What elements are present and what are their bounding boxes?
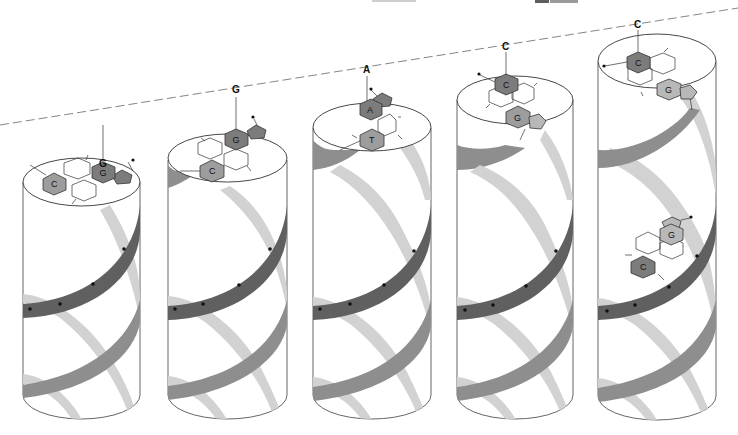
header-tab-light [550, 0, 578, 3]
phosphate-dot [554, 249, 558, 253]
cylinder-5: G C C G C [598, 19, 716, 425]
base-label-upper: G [668, 230, 675, 240]
base-label-upper: G [233, 135, 240, 145]
header-tab-dark [535, 0, 549, 3]
phosphate-dot [524, 284, 528, 288]
phosphate-dot [667, 285, 671, 289]
phosphate-dot [268, 247, 272, 251]
base-label-lower: G [514, 113, 521, 123]
sequence-label: C [502, 41, 509, 52]
sugar-dot [251, 115, 254, 118]
phosphate-dot [91, 282, 95, 286]
phosphate-dot [695, 254, 699, 258]
phosphate-dot [633, 303, 637, 307]
cylinder-2: G C G [168, 84, 287, 425]
caption-fragment [372, 0, 416, 2]
phosphate-dot [122, 247, 126, 251]
base-label-lower: T [369, 135, 375, 145]
phosphate-dot [173, 307, 177, 311]
phosphate-dot [348, 302, 352, 306]
base-label-lower: C [209, 166, 216, 176]
phosphate-dot [491, 303, 495, 307]
phosphate-dot [605, 309, 609, 313]
phosphate-dot [28, 307, 32, 311]
phosphate-dot [463, 308, 467, 312]
phosphate-dot [201, 302, 205, 306]
sequence-label: G [232, 84, 240, 95]
dna-helix-diagram: G C G [0, 0, 738, 435]
base-label-upper: A [367, 105, 373, 115]
top-face [598, 34, 716, 88]
cylinder-4: C G C [457, 41, 573, 425]
base-label-upper: G [100, 168, 107, 178]
phosphate-dot [382, 283, 386, 287]
cylinder-1: G C G [23, 125, 140, 425]
phosphate-dot [318, 307, 322, 311]
sequence-label: C [634, 19, 641, 30]
base-label-upper: C [635, 58, 642, 68]
base-label-lower: C [51, 179, 58, 189]
cylinder-3: A T A [313, 64, 431, 425]
phosphate-dot [58, 302, 62, 306]
phosphate-dot [237, 283, 241, 287]
base-label-lower: C [640, 262, 647, 272]
sugar-dot [131, 158, 134, 161]
sequence-label: G [99, 158, 107, 169]
header-fragment [372, 0, 578, 3]
base-label-lower: G [665, 85, 672, 95]
purine-five-ring [247, 125, 266, 139]
base-label-upper: C [503, 80, 510, 90]
sequence-label: A [363, 64, 370, 75]
phosphate-dot [412, 249, 416, 253]
